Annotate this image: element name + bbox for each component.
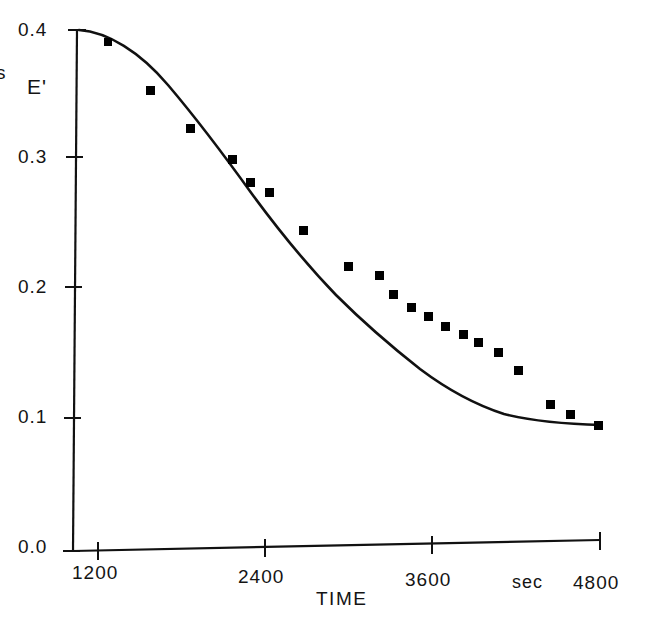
data-point (594, 421, 603, 430)
data-point (246, 178, 255, 187)
data-point (265, 188, 274, 197)
data-point (441, 322, 450, 331)
data-point (104, 38, 112, 46)
data-point (375, 271, 384, 280)
plot-area (0, 0, 645, 619)
chart-figure: s E' 0.4 0.3 0.2 0.1 0.0 1200 2400 3600 … (0, 0, 645, 619)
data-point (299, 226, 308, 235)
data-point (566, 410, 575, 419)
data-point (186, 124, 195, 133)
data-point (424, 312, 433, 321)
data-point (146, 86, 155, 95)
data-point (389, 290, 398, 299)
data-point (494, 348, 503, 357)
data-point (514, 366, 523, 375)
fit-curve (79, 30, 601, 425)
data-point (459, 330, 468, 339)
data-point (546, 400, 555, 409)
data-point (344, 262, 353, 271)
data-point (474, 338, 483, 347)
x-axis-spine (73, 540, 600, 551)
y-axis-spine (73, 30, 77, 551)
data-point (407, 303, 416, 312)
data-point (228, 155, 237, 164)
